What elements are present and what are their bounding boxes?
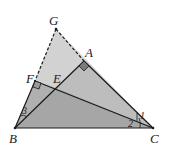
angle-label-2: 2 bbox=[128, 118, 133, 129]
geometry-diagram: G A F E B C 3 2 1 bbox=[0, 0, 177, 153]
angle-label-3: 3 bbox=[21, 105, 27, 116]
label-a: A bbox=[84, 45, 93, 60]
label-f: F bbox=[25, 71, 35, 86]
angle-label-1: 1 bbox=[140, 110, 145, 121]
point-f bbox=[34, 80, 36, 82]
label-e: E bbox=[52, 71, 61, 86]
point-g bbox=[55, 28, 58, 31]
point-c bbox=[152, 127, 155, 130]
point-b bbox=[14, 127, 17, 130]
label-c: C bbox=[150, 131, 159, 146]
label-g: G bbox=[49, 13, 59, 28]
right-angle-f-icon bbox=[33, 81, 41, 89]
label-b: B bbox=[9, 131, 17, 146]
